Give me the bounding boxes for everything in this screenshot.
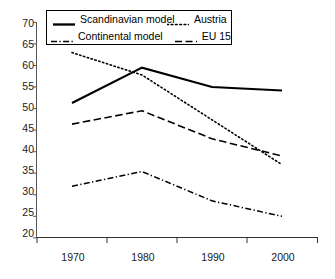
legend-swatch-solid-icon (53, 15, 75, 24)
series-line-austria (72, 53, 282, 165)
legend-swatch-dashed-icon (175, 32, 197, 41)
legend-row: Scandinavian model Austria (47, 11, 231, 28)
series-line-scandinavian-model (72, 68, 282, 103)
chart-legend: Scandinavian model Austria Continental m… (46, 10, 232, 45)
legend-swatch-dotted-icon (167, 15, 189, 24)
legend-entry-continental-model: Continental model (47, 31, 163, 42)
series-line-eu-15 (72, 111, 282, 156)
legend-label: Austria (194, 14, 227, 25)
line-chart: 70 65 60 55 50 45 40 35 30 25 20 1970 19… (0, 0, 335, 279)
legend-entry-scandinavian-model: Scandinavian model (47, 14, 165, 25)
legend-swatch-dash-dot-icon (51, 32, 73, 41)
legend-row: Continental model EU 15 (47, 28, 231, 45)
x-axis-ticks (37, 238, 318, 243)
series-line-continental-model (72, 172, 282, 217)
legend-entry-austria: Austria (165, 14, 231, 25)
series-lines (72, 53, 282, 217)
legend-label: Scandinavian model (80, 14, 175, 25)
legend-entry-eu-15: EU 15 (163, 31, 231, 42)
legend-label: EU 15 (202, 31, 231, 42)
legend-label: Continental model (78, 31, 163, 42)
